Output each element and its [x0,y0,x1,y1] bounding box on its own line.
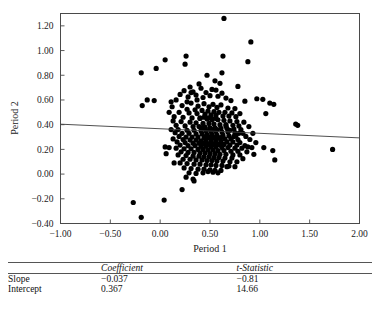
data-point [169,99,174,104]
data-point [174,97,179,102]
data-point [220,159,225,164]
data-point [261,145,266,150]
data-point [330,147,335,152]
y-tick-label: 0.00 [37,169,54,179]
data-point [140,103,145,108]
data-point [247,137,252,142]
data-point [179,119,184,124]
data-point [172,160,177,165]
regression-stats-table: Coefficient t-Statistic Slope −0.037 −0.… [8,262,372,294]
data-point [212,78,217,83]
data-point [183,175,188,180]
data-point [200,170,205,175]
header-t-statistic: t-Statistic [237,263,372,273]
data-point [220,113,225,118]
data-point [221,16,226,21]
data-point [194,97,199,102]
data-point [139,215,144,220]
data-point [205,169,210,174]
data-point [185,94,190,99]
x-axis-title: Period 1 [193,243,227,254]
data-point [208,162,213,167]
x-tick-label: 1.00 [252,229,269,239]
intercept-t-statistic-value: 14.66 [237,284,372,294]
table-row: Slope −0.037 −0.81 [8,274,372,284]
data-point [213,87,218,92]
data-point [181,88,186,93]
data-point [178,160,183,165]
data-point [253,140,258,145]
data-point [227,159,232,164]
data-point [233,114,238,119]
data-point [248,39,253,44]
data-point [214,159,219,164]
data-point [210,170,215,175]
data-point [271,102,276,107]
y-tick-label: 0.20 [37,145,54,155]
data-point [187,84,192,89]
data-point [163,144,168,149]
data-point [182,62,187,67]
scatter-plot-figure: −1.00−0.500.000.501.001.502.00 1.201.000… [0,0,380,258]
data-point [263,111,268,116]
data-point [251,152,256,157]
data-point [172,114,177,119]
y-tick-label: 0.60 [37,95,54,105]
data-point [231,134,236,139]
data-point [224,164,229,169]
data-point [163,57,168,62]
data-point [194,111,199,116]
data-point [197,162,202,167]
data-point [178,92,183,97]
plot-canvas: −1.00−0.500.000.501.001.502.00 1.201.000… [0,0,380,258]
data-point [212,142,217,147]
x-tick-label: −1.00 [50,229,72,239]
data-point [174,146,179,151]
data-point [191,178,196,183]
data-point [232,164,237,169]
y-tick-label: −0.20 [32,194,54,204]
x-tick-label: 1.50 [301,229,318,239]
data-point [179,103,184,108]
data-point [223,96,228,101]
data-point [187,120,192,125]
data-point [188,90,193,95]
data-point [219,70,224,75]
data-point [171,118,176,123]
data-point [206,121,211,126]
data-point [240,156,245,161]
y-axis-tick-labels: 1.201.000.800.600.400.200.00−0.20−0.40 [32,21,54,229]
data-point [193,92,198,97]
data-point [145,97,150,102]
slope-coefficient-value: −0.037 [101,274,236,284]
data-point [186,110,191,115]
data-point [223,123,228,128]
data-point [213,116,218,121]
x-tick-label: 2.00 [351,229,368,239]
data-point [183,54,188,59]
data-point [241,120,246,125]
data-point [244,149,249,154]
data-point [179,187,184,192]
scatter-points [131,16,336,220]
data-point [191,162,196,167]
data-point [213,163,218,168]
data-point [184,161,189,166]
data-point [219,163,224,168]
data-point [254,96,259,101]
data-point [177,110,182,115]
data-point [186,170,191,175]
data-point [170,104,175,109]
data-point [152,98,157,103]
y-tick-label: 0.40 [37,120,54,130]
data-point [167,110,172,115]
y-tick-label: 1.20 [37,21,54,31]
table-row: Intercept 0.367 14.66 [8,284,372,294]
data-point [139,70,144,75]
data-point [209,158,214,163]
data-point [217,142,222,147]
data-point [245,144,250,149]
data-point [187,157,192,162]
x-tick-label: 0.50 [202,229,219,239]
data-point [245,59,250,64]
